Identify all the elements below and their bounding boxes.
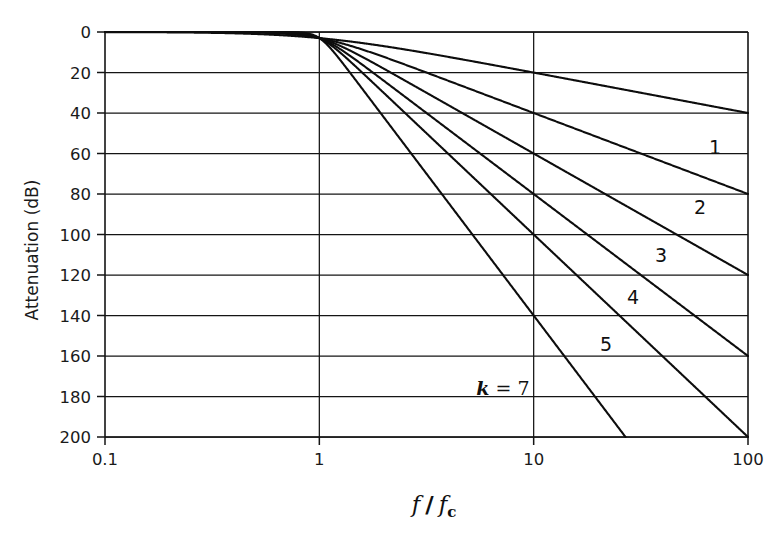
y-tick-label: 160: [60, 347, 92, 366]
curve-label-3: 3: [655, 244, 667, 266]
y-tick-label: 140: [60, 307, 92, 326]
y-tick-label: 180: [60, 388, 92, 407]
butterworth-attenuation-chart: 020406080100120140160180200 0.1110100 12…: [0, 0, 783, 542]
curve-label-k7: k = 7: [476, 377, 529, 399]
x-axis-title-subscript: c: [447, 503, 456, 521]
x-tick-label: 0.1: [92, 450, 118, 469]
x-axis-tick-labels: 0.1110100: [92, 450, 764, 469]
x-tick-label: 100: [732, 450, 764, 469]
x-tick-label: 10: [523, 450, 544, 469]
y-tick-label: 100: [60, 226, 92, 245]
y-tick-label: 80: [70, 185, 91, 204]
y-axis-title: Attenuation (dB): [22, 180, 42, 321]
chart-figure: 020406080100120140160180200 0.1110100 12…: [0, 0, 783, 542]
curve-label-2: 2: [694, 196, 706, 218]
curve-label-1: 1: [709, 136, 721, 158]
y-tick-label: 0: [81, 23, 92, 42]
x-axis-title: f/fc: [410, 490, 457, 521]
curve-label-4: 4: [627, 286, 639, 308]
y-tick-label: 200: [60, 428, 92, 447]
y-tick-label: 40: [70, 104, 91, 123]
y-axis-tick-labels: 020406080100120140160180200: [60, 23, 92, 447]
x-tick-label: 1: [314, 450, 325, 469]
y-tick-label: 120: [60, 266, 92, 285]
y-tick-label: 60: [70, 145, 91, 164]
curve-label-5: 5: [600, 333, 612, 355]
x-axis-title-divider: /: [425, 490, 434, 517]
y-tick-label: 20: [70, 64, 91, 83]
curve-order-labels: 12345k = 7: [476, 136, 721, 399]
x-axis-title-numerator: f: [410, 491, 424, 517]
